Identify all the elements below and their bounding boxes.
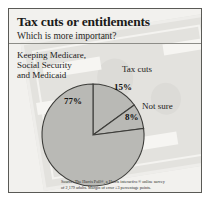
chart-screenshot: Tax cuts or entitlements Which is more i… (0, 0, 210, 203)
chart-subtitle: Which is more important? (17, 31, 193, 42)
pie-chart-area: Keeping Medicare, Social Security and Me… (9, 43, 201, 192)
source-note: Source: The Harris Poll®, a Harris inter… (61, 179, 199, 191)
label-keeping-medicare: Keeping Medicare, Social Security and Me… (17, 50, 86, 80)
label-tax-cuts: Tax cuts (122, 64, 152, 74)
label-not-sure: Not sure (142, 101, 173, 111)
chart-panel: Tax cuts or entitlements Which is more i… (8, 8, 202, 193)
chart-title: Tax cuts or entitlements (17, 15, 193, 30)
value-label-not-sure: 8% (125, 112, 139, 122)
source-line-2: of 2,179 adults. Margin of error ±3 perc… (61, 185, 199, 191)
value-label-tax-cuts: 15% (114, 82, 132, 92)
value-label-medicare: 77% (64, 96, 82, 106)
chart-header: Tax cuts or entitlements Which is more i… (9, 9, 201, 42)
